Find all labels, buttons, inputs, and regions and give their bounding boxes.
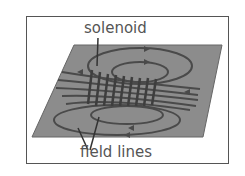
field-lines-label: field lines xyxy=(80,145,152,160)
solenoid-label: solenoid xyxy=(84,21,147,36)
